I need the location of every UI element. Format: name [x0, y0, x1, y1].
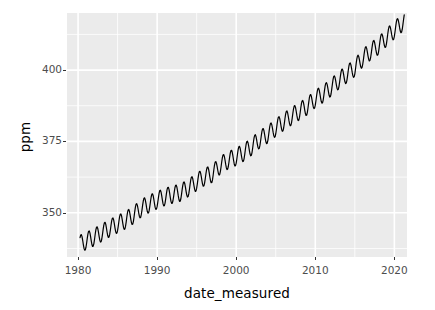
x-tick-label: 2010 [285, 264, 345, 276]
y-axis-tick-labels: 350375400 [26, 0, 62, 260]
y-tick-label: 400 [28, 64, 62, 75]
x-tick-mark [157, 257, 158, 260]
plot-panel [67, 13, 407, 257]
y-tick-label: 350 [28, 207, 62, 218]
x-tick-label: 2000 [206, 264, 266, 276]
x-tick-mark [78, 257, 79, 260]
y-tick-mark [63, 70, 66, 71]
co2-line-series [80, 15, 404, 250]
y-tick-mark [63, 141, 66, 142]
chart-container: ppm 350375400 19801990200020102020 date_… [0, 0, 435, 310]
x-axis-title: date_measured [67, 285, 407, 301]
y-tick-label: 375 [28, 135, 62, 146]
y-tick-mark [63, 213, 66, 214]
x-tick-mark [236, 257, 237, 260]
x-tick-label: 2020 [364, 264, 424, 276]
x-tick-label: 1990 [127, 264, 187, 276]
x-tick-mark [394, 257, 395, 260]
x-tick-mark [315, 257, 316, 260]
plot-svg [67, 13, 407, 257]
x-tick-label: 1980 [48, 264, 108, 276]
